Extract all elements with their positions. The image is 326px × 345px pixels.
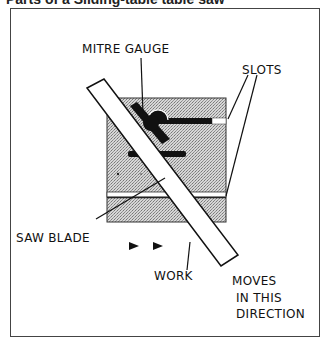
- label-mitre-gauge: MITRE GAUGE: [82, 42, 169, 56]
- label-work: WORK: [154, 269, 194, 283]
- label-saw-blade: SAW BLADE: [16, 231, 90, 245]
- leader-slot-lower: [226, 75, 257, 196]
- arrow-right-icon: [129, 242, 139, 250]
- table-saw-diagram: MITRE GAUGE SLOTS SAW BLADE WORK MOVES I…: [0, 0, 326, 345]
- label-moves-1: MOVES: [232, 274, 277, 288]
- label-slots: SLOTS: [242, 63, 282, 77]
- label-moves-3: DIRECTION: [236, 307, 305, 321]
- leader-slot-upper: [228, 75, 248, 119]
- leader-work: [187, 242, 190, 270]
- arrow-right-icon: [153, 242, 163, 250]
- label-moves-2: IN THIS: [236, 291, 282, 305]
